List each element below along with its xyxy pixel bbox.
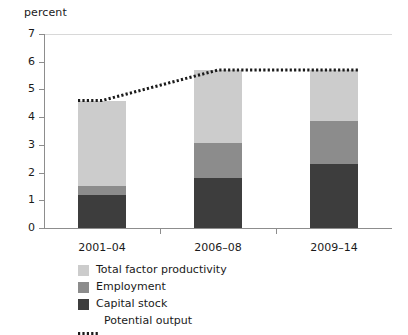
- y-tick-label: 5: [28, 81, 35, 96]
- y-tick-6: 6: [0, 62, 44, 63]
- plot-top-rule: [44, 34, 392, 35]
- legend-label: Total factor productivity: [96, 262, 227, 278]
- bar-segment: [194, 70, 242, 143]
- bar-segment: [310, 70, 358, 121]
- legend-label: Employment: [96, 279, 166, 295]
- legend-item[interactable]: Potential output: [78, 313, 378, 330]
- y-tick-mark: [39, 89, 44, 90]
- x-tick-label-0: 2001–04: [62, 241, 142, 254]
- x-axis-line: [44, 228, 392, 229]
- y-tick-label: 1: [28, 192, 35, 207]
- y-tick-1: 1: [0, 200, 44, 201]
- legend-swatch-icon: [78, 265, 89, 276]
- y-tick-5: 5: [0, 89, 44, 90]
- bar-segment: [78, 101, 126, 187]
- y-tick-label: 4: [28, 109, 35, 124]
- legend-label: Potential output: [104, 313, 192, 329]
- y-tick-mark: [39, 228, 44, 229]
- y-tick-label: 6: [28, 54, 35, 69]
- y-tick-7: 7: [0, 34, 44, 35]
- bar-segment: [310, 121, 358, 164]
- bar-segment: [78, 195, 126, 228]
- y-tick-mark: [39, 173, 44, 174]
- y-tick-mark: [39, 62, 44, 63]
- bar-segment: [310, 164, 358, 228]
- bar-segment: [194, 143, 242, 178]
- x-tick-mark: [276, 228, 277, 234]
- x-tick-label-1: 2006–08: [178, 241, 258, 254]
- legend-item[interactable]: Total factor productivity: [78, 262, 378, 279]
- x-tick-mark: [160, 228, 161, 234]
- y-tick-label: 2: [28, 165, 35, 180]
- legend-item[interactable]: Capital stock: [78, 296, 378, 313]
- y-tick-2: 2: [0, 173, 44, 174]
- y-tick-mark: [39, 117, 44, 118]
- x-tick-label-2: 2009–14: [294, 241, 374, 254]
- y-tick-mark: [39, 34, 44, 35]
- y-tick-label: 7: [28, 26, 35, 41]
- y-tick-label: 0: [28, 220, 35, 235]
- bar-segment: [78, 186, 126, 194]
- y-tick-0: 0: [0, 228, 44, 229]
- y-tick-label: 3: [28, 137, 35, 152]
- chart-container: percent 01234567 2001–042006–082009–14 T…: [0, 0, 408, 335]
- bar-segment: [194, 178, 242, 228]
- chart-legend: Total factor productivityEmploymentCapit…: [78, 262, 378, 330]
- legend-item[interactable]: Employment: [78, 279, 378, 296]
- legend-dotted-line-icon: [78, 320, 100, 323]
- legend-swatch-icon: [78, 299, 89, 310]
- y-tick-mark: [39, 200, 44, 201]
- legend-label: Capital stock: [96, 296, 167, 312]
- y-axis-line: [44, 34, 45, 229]
- y-tick-mark: [39, 145, 44, 146]
- y-axis-title: percent: [24, 6, 67, 19]
- legend-swatch-icon: [78, 282, 89, 293]
- y-tick-4: 4: [0, 117, 44, 118]
- y-tick-3: 3: [0, 145, 44, 146]
